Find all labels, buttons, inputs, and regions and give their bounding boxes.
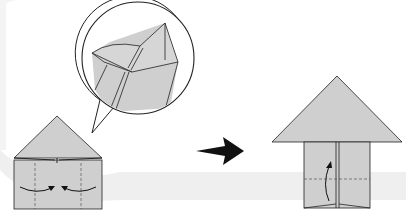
origami-diagram — [0, 0, 406, 219]
detail-callout — [75, 0, 194, 133]
roof-triangle — [272, 76, 402, 142]
roof-triangle — [14, 116, 102, 158]
step-before-model — [14, 116, 102, 209]
house-body — [304, 142, 370, 208]
house-body — [14, 160, 102, 209]
next-step-arrow-icon — [196, 137, 244, 165]
